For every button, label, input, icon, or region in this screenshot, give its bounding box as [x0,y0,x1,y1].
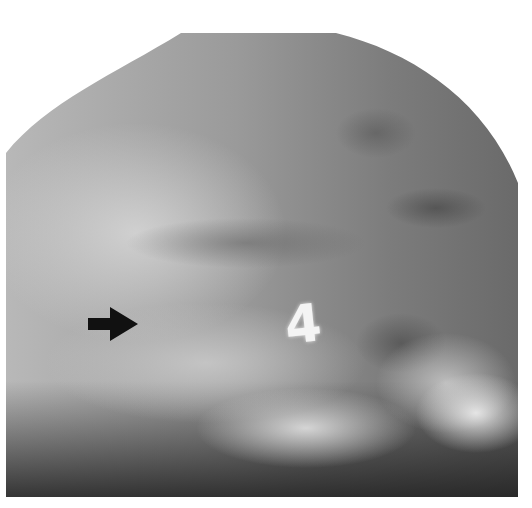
number-marker: 4 [275,294,331,355]
arrow-right-icon [88,307,138,341]
radiograph-image [6,33,518,497]
radiograph-figure: 4 [0,0,532,508]
